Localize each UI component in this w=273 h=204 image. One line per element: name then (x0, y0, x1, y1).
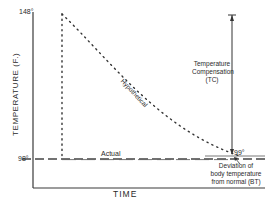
tc-label: Temperature Compensation (TC) (192, 60, 232, 84)
tc-label-line2: Compensation (192, 68, 232, 76)
tc-label-line3: (TC) (192, 76, 232, 84)
bt-label-line3: from normal (BT) (205, 178, 267, 186)
bt-label-line2: body temperature (205, 170, 267, 178)
actual-label: Actual (101, 150, 120, 157)
y-tick-148: 148° (19, 8, 33, 15)
y-tick-98: 98° (18, 155, 29, 162)
y-axis-label: TEMPERATURE (F.) (12, 53, 20, 136)
x-axis-label: TIME (113, 190, 137, 199)
tc-label-line1: Temperature (192, 60, 232, 68)
ninety-nine-label: 99° (234, 149, 245, 156)
bt-label-line1: Deviation of (205, 162, 267, 170)
tc-arrow-head-top (230, 15, 234, 21)
bt-label: Deviation of body temperature from norma… (205, 162, 267, 186)
hypothetical-curve (62, 14, 240, 156)
